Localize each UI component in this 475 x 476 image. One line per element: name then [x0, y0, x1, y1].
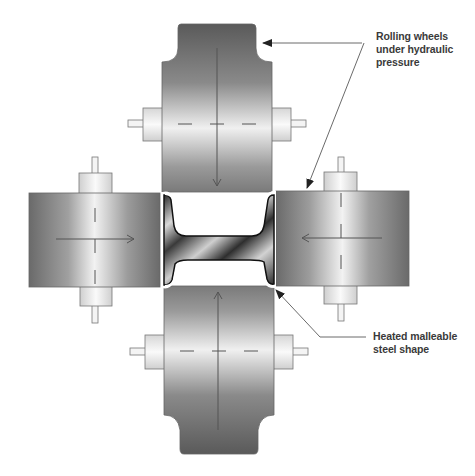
bottom-wheel-left-bushing [145, 335, 165, 369]
rolling-wheels-label-line-2: under hydraulic [376, 43, 453, 56]
left-wheel-bottom-axle-pin [92, 305, 98, 323]
bottom-wheel-left-axle-pin [130, 348, 146, 355]
bottom-wheel-right-bushing [273, 335, 293, 369]
rolling-wheels-label-line-3: pressure [376, 56, 453, 69]
top-wheel-right-axle-pin [290, 120, 306, 127]
left-wheel-top-bushing [79, 173, 112, 194]
bottom-rolling-wheel [130, 286, 308, 454]
bottom-wheel-body [164, 286, 274, 454]
top-rolling-wheel [128, 24, 306, 192]
steel-shape-label: Heated malleable steel shape [373, 330, 457, 356]
left-wheel-top-axle-pin [92, 157, 98, 174]
rolling-wheels-label: Rolling wheels under hydraulic pressure [376, 30, 453, 69]
right-rolling-wheel [276, 157, 409, 321]
right-wheel-bottom-axle-pin [338, 303, 344, 321]
bottom-wheel-right-axle-pin [292, 348, 308, 355]
right-wheel-top-axle-pin [338, 157, 344, 174]
right-wheel-top-bushing [324, 172, 357, 192]
callout-line-top-right [307, 43, 364, 188]
right-wheel-bottom-bushing [324, 285, 357, 304]
top-wheel-left-axle-pin [128, 120, 144, 127]
left-wheel-bottom-bushing [80, 286, 112, 306]
top-wheel-right-bushing [271, 108, 291, 141]
steel-i-beam [162, 191, 276, 288]
left-rolling-wheel [29, 157, 160, 323]
rolling-wheels-label-line-1: Rolling wheels [376, 30, 453, 43]
steel-shape-label-line-2: steel shape [373, 343, 457, 356]
i-beam-shape [164, 195, 274, 285]
rolling-mill-diagram [0, 0, 475, 476]
steel-shape-label-line-1: Heated malleable [373, 330, 457, 343]
top-wheel-left-bushing [143, 108, 163, 141]
